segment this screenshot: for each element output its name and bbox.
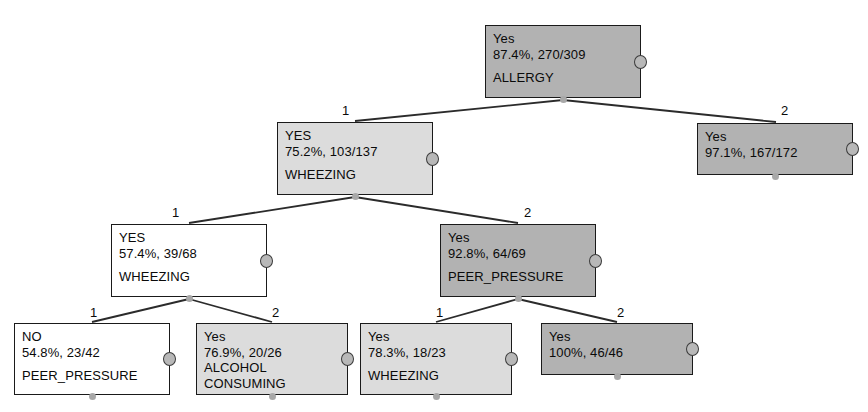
tree-node[interactable]: NO54.8%, 23/42PEER_PRESSURE bbox=[14, 323, 170, 395]
node-expand-nub-icon[interactable] bbox=[433, 393, 440, 400]
node-class-label: Yes bbox=[705, 129, 845, 145]
tree-edge bbox=[436, 299, 518, 322]
edge-branch-label: 1 bbox=[90, 306, 97, 319]
node-class-label: Yes bbox=[368, 329, 504, 345]
node-expand-nub-icon[interactable] bbox=[89, 393, 96, 400]
node-statistic: 100%, 46/46 bbox=[549, 345, 685, 361]
node-statistic: 78.3%, 18/23 bbox=[368, 345, 504, 361]
tree-edge bbox=[355, 197, 518, 223]
node-class-label: Yes bbox=[549, 329, 685, 345]
tree-edge bbox=[355, 100, 563, 121]
tree-edge bbox=[563, 100, 776, 122]
node-class-label: YES bbox=[119, 230, 259, 246]
node-collapse-handle-icon[interactable] bbox=[634, 55, 647, 69]
tree-node[interactable]: Yes92.8%, 64/69PEER_PRESSURE bbox=[440, 224, 596, 297]
edge-branch-label: 2 bbox=[272, 306, 279, 319]
tree-node[interactable]: Yes87.4%, 270/309ALLERGY bbox=[485, 25, 641, 98]
node-collapse-handle-icon[interactable] bbox=[686, 342, 699, 356]
node-statistic: 97.1%, 167/172 bbox=[705, 145, 845, 161]
node-collapse-handle-icon[interactable] bbox=[341, 352, 354, 366]
node-split-attribute-line2: CONSUMING bbox=[204, 376, 340, 392]
node-collapse-handle-icon[interactable] bbox=[589, 254, 602, 268]
node-statistic: 87.4%, 270/309 bbox=[493, 47, 633, 63]
tree-node[interactable]: Yes100%, 46/46 bbox=[541, 323, 693, 375]
node-class-label: Yes bbox=[493, 31, 633, 47]
node-expand-nub-icon[interactable] bbox=[269, 393, 276, 400]
node-collapse-handle-icon[interactable] bbox=[260, 254, 273, 268]
node-class-label: Yes bbox=[448, 230, 588, 246]
node-expand-nub-icon[interactable] bbox=[614, 373, 621, 380]
node-class-label: Yes bbox=[204, 329, 340, 345]
node-expand-nub-icon[interactable] bbox=[772, 173, 779, 180]
edge-branch-label: 1 bbox=[172, 206, 179, 219]
node-statistic: 75.2%, 103/137 bbox=[285, 144, 425, 160]
node-collapse-handle-icon[interactable] bbox=[505, 352, 518, 366]
node-split-attribute: PEER_PRESSURE bbox=[22, 368, 162, 384]
node-split-attribute: WHEEZING bbox=[119, 269, 259, 285]
tree-node[interactable]: Yes76.9%, 20/26ALCOHOLCONSUMING bbox=[196, 323, 348, 395]
node-expand-nub-icon[interactable] bbox=[560, 96, 567, 103]
node-expand-nub-icon[interactable] bbox=[352, 193, 359, 200]
node-class-label: NO bbox=[22, 329, 162, 345]
node-statistic: 92.8%, 64/69 bbox=[448, 246, 588, 262]
tree-edge bbox=[189, 197, 355, 223]
edge-branch-label: 1 bbox=[342, 104, 349, 117]
node-statistic: 57.4%, 39/68 bbox=[119, 246, 259, 262]
edge-branch-label: 1 bbox=[436, 306, 443, 319]
node-split-attribute: ALCOHOL bbox=[204, 360, 340, 376]
tree-node[interactable]: YES57.4%, 39/68WHEEZING bbox=[111, 224, 267, 297]
node-split-attribute: WHEEZING bbox=[285, 167, 425, 183]
node-collapse-handle-icon[interactable] bbox=[846, 142, 859, 156]
decision-tree-diagram: Yes87.4%, 270/309ALLERGYYES75.2%, 103/13… bbox=[0, 0, 868, 412]
edge-branch-label: 2 bbox=[781, 104, 788, 117]
tree-edge bbox=[92, 299, 189, 322]
node-expand-nub-icon[interactable] bbox=[186, 295, 193, 302]
node-split-attribute: PEER_PRESSURE bbox=[448, 269, 588, 285]
node-statistic: 54.8%, 23/42 bbox=[22, 345, 162, 361]
tree-edge bbox=[189, 299, 272, 322]
node-statistic: 76.9%, 20/26 bbox=[204, 345, 340, 361]
tree-edge bbox=[518, 299, 617, 322]
node-class-label: YES bbox=[285, 128, 425, 144]
tree-node[interactable]: YES75.2%, 103/137WHEEZING bbox=[277, 122, 433, 195]
edge-branch-label: 2 bbox=[617, 306, 624, 319]
node-expand-nub-icon[interactable] bbox=[515, 295, 522, 302]
tree-node[interactable]: Yes97.1%, 167/172 bbox=[697, 123, 853, 175]
node-split-attribute: WHEEZING bbox=[368, 368, 504, 384]
node-collapse-handle-icon[interactable] bbox=[426, 152, 439, 166]
node-collapse-handle-icon[interactable] bbox=[163, 352, 176, 366]
node-split-attribute: ALLERGY bbox=[493, 70, 633, 86]
edge-branch-label: 2 bbox=[524, 206, 531, 219]
tree-node[interactable]: Yes78.3%, 18/23WHEEZING bbox=[360, 323, 512, 395]
